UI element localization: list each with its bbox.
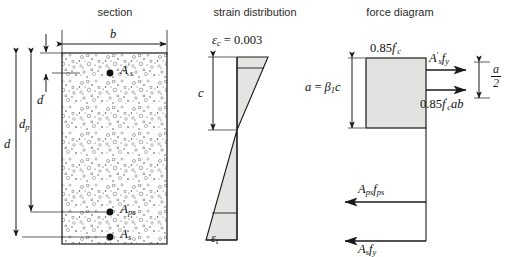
label-prestress-force: Apsfps: [358, 182, 384, 197]
label-bar-compression-steel: A′s: [120, 62, 133, 78]
concrete-section-outline: [62, 53, 167, 244]
label-tension-steel-force: Asfy: [358, 242, 376, 257]
label-strain-concrete: εc = 0.003: [212, 33, 262, 48]
label-section-width: b: [110, 27, 116, 42]
label-compression-steel-force: A′sfy: [429, 50, 449, 66]
label-concrete-block-force: 0.85f′cab: [420, 96, 464, 112]
dimension-a-half: [474, 62, 490, 98]
label-dimension-a-half: a2: [491, 63, 501, 89]
label-concrete-stress: 0.85f′c: [370, 40, 401, 56]
bar-compression-steel: [107, 70, 114, 77]
label-dimension-d-prime: d′: [37, 92, 45, 108]
label-bar-prestress-steel: Aps: [120, 201, 136, 217]
strain-tension-wedge: [206, 130, 237, 240]
dimension-c: [208, 57, 236, 130]
label-dimension-c: c: [198, 86, 204, 101]
stress-block: [366, 58, 426, 128]
label-dimension-d: d: [4, 137, 10, 152]
label-dimension-dp: dp: [19, 117, 30, 132]
label-strain-tension: εt: [211, 231, 218, 246]
label-dimension-a: a = β1c: [305, 80, 341, 95]
dimension-a: [348, 58, 365, 128]
label-bar-tension-steel: As: [120, 226, 131, 242]
